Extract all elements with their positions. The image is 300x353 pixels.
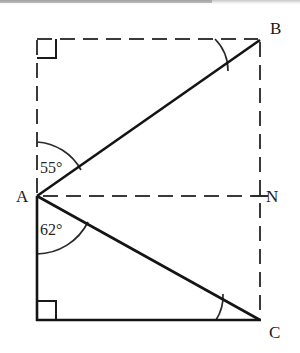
geometry-figure — [0, 0, 300, 353]
segment-AB — [37, 40, 260, 196]
right-angle-marker-top-left — [37, 39, 56, 58]
vertex-label-C: C — [269, 324, 280, 341]
right-angle-marker-bottom-left — [37, 301, 56, 320]
vertex-label-B: B — [270, 20, 281, 37]
vertex-label-N: N — [266, 188, 278, 205]
segment-AC — [37, 196, 260, 320]
vertex-label-A: A — [16, 188, 28, 205]
diagram-page: A B C N 55° 62° — [0, 0, 300, 353]
angle-label-62: 62° — [40, 222, 62, 238]
angle-label-55: 55° — [40, 160, 62, 176]
